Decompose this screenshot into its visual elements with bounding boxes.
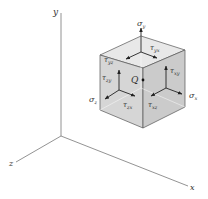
point-q-marker	[142, 79, 145, 82]
stress-element-diagram: y x z Q σy τyx τyz τzy τxy σz	[0, 0, 208, 199]
point-q-label: Q	[131, 75, 139, 85]
y-axis-label: y	[52, 7, 59, 17]
stress-cube	[100, 36, 185, 128]
x-axis-label: x	[190, 183, 195, 192]
sigma-x-label: σx	[189, 91, 197, 101]
x-axis	[61, 136, 188, 186]
sigma-z-label: σz	[89, 95, 97, 105]
z-axis	[16, 136, 61, 162]
cube-left-face	[100, 55, 143, 128]
z-axis-label: z	[8, 159, 14, 168]
